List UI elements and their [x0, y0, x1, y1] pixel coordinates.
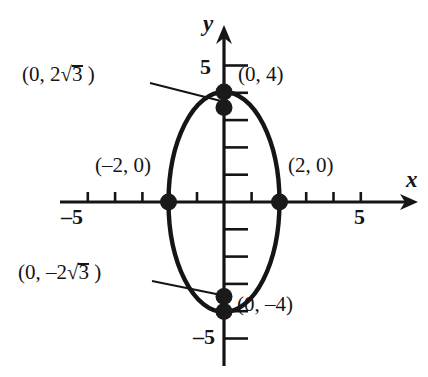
radical-sign-icon: √	[67, 260, 79, 284]
ellipse-graph-figure: y x 5 –5 –5 5 (0, 4) (0, –4) (–2, 0) (2,…	[0, 0, 428, 377]
x-tick-label-5: 5	[354, 206, 365, 228]
y-tick-label-minus5: –5	[193, 326, 215, 348]
point-label-0-2sqrt3: (0, 2√3 )	[22, 64, 95, 85]
point-upper-inner	[216, 99, 233, 116]
x-axis-label: x	[406, 168, 418, 191]
point-lower-inner	[216, 288, 233, 305]
sqrt-lower-prefix: (0, –2	[18, 260, 67, 284]
y-axis-label: y	[203, 12, 213, 35]
point-label-0-minus2sqrt3: (0, –2√3 )	[18, 262, 101, 283]
radical-overbar	[78, 263, 89, 265]
sqrt-lower-radical-group: √3	[67, 262, 89, 283]
graph-canvas	[0, 0, 428, 377]
point-left-vertex	[160, 194, 177, 211]
sqrt-lower-suffix: )	[89, 260, 101, 284]
radical-sign-icon: √	[61, 62, 73, 86]
sqrt-upper-prefix: (0, 2	[22, 62, 61, 86]
sqrt-upper-radical-group: √3	[61, 64, 83, 85]
point-label-0-4: (0, 4)	[238, 64, 284, 85]
point-label-minus2-0: (–2, 0)	[95, 155, 151, 176]
y-tick-label-5: 5	[200, 56, 211, 78]
point-right-vertex	[271, 194, 288, 211]
radical-overbar	[72, 65, 83, 67]
point-label-2-0: (2, 0)	[288, 155, 334, 176]
sqrt-upper-suffix: )	[83, 62, 95, 86]
point-top-vertex	[216, 84, 233, 101]
x-tick-label-minus5: –5	[61, 206, 83, 228]
point-label-0-minus4: (0, –4)	[237, 294, 293, 315]
point-bottom-vertex	[216, 303, 233, 320]
